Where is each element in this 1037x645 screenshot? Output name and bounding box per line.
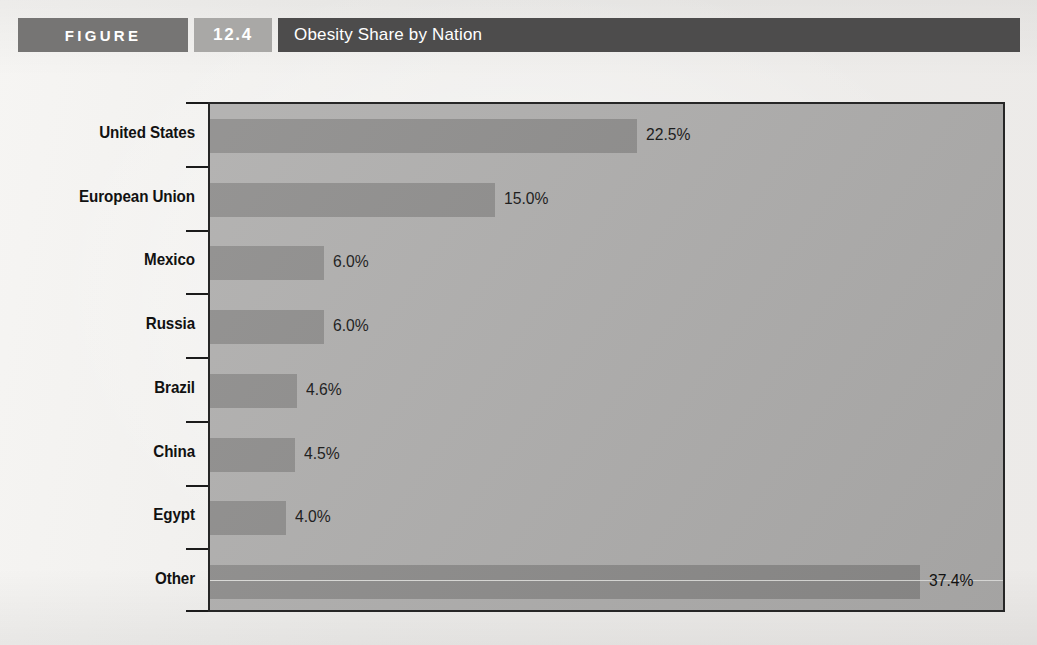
bar-value-label: 37.4% bbox=[929, 571, 973, 590]
category-label: European Union bbox=[16, 187, 195, 206]
bar-value-label: 4.0% bbox=[295, 507, 331, 526]
axis-tick bbox=[186, 166, 208, 168]
category-label: Russia bbox=[16, 314, 195, 333]
axis-tick bbox=[186, 102, 208, 104]
bar-value-label: 4.5% bbox=[304, 444, 340, 463]
plot-area: 22.5%15.0%6.0%6.0%4.6%4.5%4.0%37.4% bbox=[208, 102, 1005, 612]
bar bbox=[210, 310, 324, 344]
axis-tick bbox=[186, 485, 208, 487]
figure-number-block: 12.4 bbox=[194, 18, 272, 52]
category-label: Other bbox=[16, 569, 195, 588]
axis-tick bbox=[186, 293, 208, 295]
bar-value-label: 4.6% bbox=[306, 380, 342, 399]
bar-chart: United StatesEuropean UnionMexicoRussiaB… bbox=[0, 70, 1037, 645]
bar bbox=[210, 438, 295, 472]
bar-value-label: 6.0% bbox=[333, 252, 369, 271]
bar bbox=[210, 119, 637, 153]
category-label: Brazil bbox=[16, 378, 195, 397]
bar bbox=[210, 565, 920, 599]
category-axis-ticks bbox=[186, 102, 210, 612]
bar bbox=[210, 374, 297, 408]
bar-value-label: 15.0% bbox=[504, 189, 548, 208]
figure-label-block: FIGURE bbox=[18, 18, 188, 52]
axis-tick bbox=[186, 230, 208, 232]
bar bbox=[210, 246, 324, 280]
axis-tick bbox=[186, 357, 208, 359]
category-label: United States bbox=[16, 123, 195, 142]
scan-artifact-line bbox=[210, 580, 1005, 581]
axis-tick bbox=[186, 610, 208, 612]
axis-tick bbox=[186, 548, 208, 550]
bar bbox=[210, 183, 495, 217]
category-label: Mexico bbox=[16, 250, 195, 269]
figure-header: FIGURE 12.4 Obesity Share by Nation bbox=[0, 0, 1037, 70]
bar-value-label: 22.5% bbox=[646, 125, 690, 144]
figure-title-block: Obesity Share by Nation bbox=[278, 18, 1020, 52]
category-label: China bbox=[16, 442, 195, 461]
bar bbox=[210, 501, 286, 535]
bar-value-label: 6.0% bbox=[333, 316, 369, 335]
category-axis-labels: United StatesEuropean UnionMexicoRussiaB… bbox=[0, 102, 195, 612]
axis-tick bbox=[186, 421, 208, 423]
category-label: Egypt bbox=[16, 505, 195, 524]
